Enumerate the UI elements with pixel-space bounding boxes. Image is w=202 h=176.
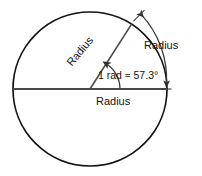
angle-label: 1 rad ≈ 57.3°: [98, 70, 158, 81]
radius-label-arc: Radius: [144, 40, 178, 51]
radius-label-bottom: Radius: [96, 96, 130, 107]
radian-circle-diagram: Radius Radius Radius 1 rad ≈ 57.3°: [0, 0, 202, 176]
diagram-canvas: [0, 0, 202, 176]
